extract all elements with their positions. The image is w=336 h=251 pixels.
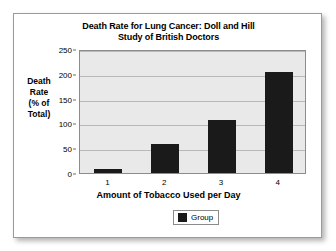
legend-swatch-group — [178, 213, 187, 222]
x-axis-ticks: 1234 — [79, 175, 306, 189]
y-tick-mark-150 — [73, 99, 76, 100]
chart-title-line-1: Death Rate for Lung Cancer: Doll and Hil… — [14, 21, 323, 32]
x-axis-title: Amount of Tobacco Used per Day — [14, 190, 323, 200]
chart-title: Death Rate for Lung Cancer: Doll and Hil… — [14, 21, 323, 43]
y-tick-mark-200 — [73, 74, 76, 75]
y-tick-label-250: 250 — [59, 46, 72, 55]
y-tick-label-0: 0 — [68, 170, 72, 179]
chart-title-line-2: Study of British Doctors — [14, 32, 323, 43]
x-tick-label-4: 4 — [275, 178, 279, 187]
y-tick-label-200: 200 — [59, 70, 72, 79]
x-tick-label-3: 3 — [219, 178, 223, 187]
y-axis-ticks: 050100150200250 — [14, 50, 76, 174]
x-tick-label-2: 2 — [162, 178, 166, 187]
bar-3 — [208, 120, 236, 173]
y-tick-label-50: 50 — [63, 145, 72, 154]
chart-legend: Group — [173, 210, 219, 225]
bars-layer — [80, 51, 305, 173]
y-tick-label-150: 150 — [59, 95, 72, 104]
y-tick-label-100: 100 — [59, 120, 72, 129]
y-tick-mark-250 — [73, 50, 76, 51]
bar-4 — [265, 72, 293, 173]
bar-1 — [94, 169, 122, 173]
plot-area — [79, 50, 306, 174]
x-tick-label-1: 1 — [105, 178, 109, 187]
y-tick-mark-100 — [73, 124, 76, 125]
y-tick-mark-0 — [73, 174, 76, 175]
bar-2 — [151, 144, 179, 173]
figure-card: Death Rate for Lung Cancer: Doll and Hil… — [13, 13, 322, 238]
legend-label-group: Group — [191, 213, 213, 222]
y-tick-mark-50 — [73, 149, 76, 150]
